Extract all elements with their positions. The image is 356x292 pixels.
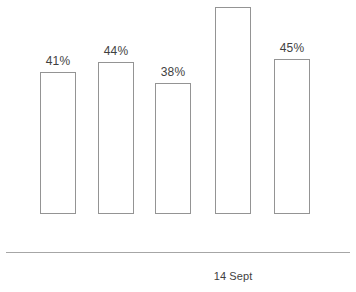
bar-value-label: 38%	[141, 65, 205, 79]
x-axis-tick-label: 14 Sept	[201, 270, 265, 282]
bar-group[interactable]: 41% 11 Sept	[40, 72, 76, 214]
bar-value-label: 41%	[26, 54, 90, 68]
bar-group[interactable]: 60% 14 Sept	[215, 7, 251, 214]
bar-rect[interactable]	[155, 83, 191, 214]
bar-rect[interactable]	[274, 59, 310, 214]
bar-rect[interactable]	[215, 7, 251, 214]
bar-group[interactable]: 45% 15 Sept	[274, 59, 310, 214]
x-axis-line	[6, 252, 350, 253]
bar-rect[interactable]	[40, 72, 76, 214]
plot-area: 41% 11 Sept 44% 12 Sept 38% 13 Sept 60% …	[0, 0, 356, 253]
bar-group[interactable]: 38% 13 Sept	[155, 83, 191, 214]
bar-rect[interactable]	[98, 62, 134, 214]
bar-group[interactable]: 44% 12 Sept	[98, 62, 134, 214]
bar-value-label: 45%	[260, 41, 324, 55]
bar-value-label: 44%	[84, 44, 148, 58]
bar-value-label: 60%	[201, 0, 265, 3]
bar-chart: 41% 11 Sept 44% 12 Sept 38% 13 Sept 60% …	[0, 0, 356, 292]
